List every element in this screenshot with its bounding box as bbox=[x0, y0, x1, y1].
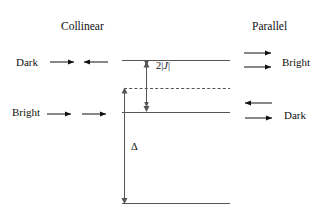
energy-level-diagram: Collinear Parallel Dark Bright Bright Da… bbox=[0, 0, 330, 216]
diagram-vectors bbox=[0, 0, 330, 216]
